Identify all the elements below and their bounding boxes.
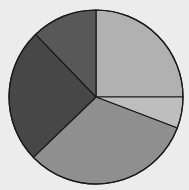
pie-slices	[9, 10, 183, 184]
pie-slice-1	[96, 10, 183, 97]
pie-chart	[0, 0, 189, 190]
